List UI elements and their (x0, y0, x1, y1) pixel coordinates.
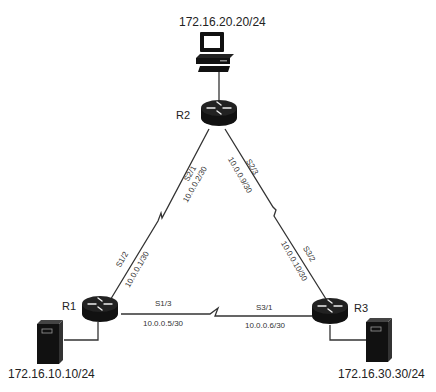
r3-s3-1-ip: 10.0.0.6/30 (245, 322, 285, 330)
router-r2-label: R2 (176, 110, 190, 121)
link-r1-server (64, 322, 98, 340)
serial-link-r2-r3 (225, 129, 326, 299)
r1-s1-3-interface: S1/3 (155, 300, 171, 308)
router-r2-icon[interactable] (201, 100, 237, 126)
router-r3-icon[interactable] (312, 298, 348, 324)
serial-link-r1-r2 (109, 129, 209, 302)
r1-s1-3-ip: 10.0.0.5/30 (143, 320, 183, 328)
server-r3-icon[interactable] (366, 318, 392, 362)
router-r1-label: R1 (62, 301, 76, 312)
router-r1-icon[interactable] (82, 296, 118, 322)
serial-link-r1-r3 (121, 308, 312, 316)
server-r3-ip-label: 172.16.30.30/24 (338, 368, 425, 380)
router-r3-label: R3 (354, 303, 368, 314)
r3-s3-1-interface: S3/1 (256, 304, 272, 312)
link-r3-server (330, 325, 366, 340)
server-r1-icon[interactable] (37, 320, 63, 364)
network-diagram (0, 0, 436, 392)
workstation-icon[interactable] (196, 32, 234, 72)
server-r1-ip-label: 172.16.10.10/24 (8, 368, 95, 380)
pc-ip-label: 172.16.20.20/24 (179, 16, 266, 28)
